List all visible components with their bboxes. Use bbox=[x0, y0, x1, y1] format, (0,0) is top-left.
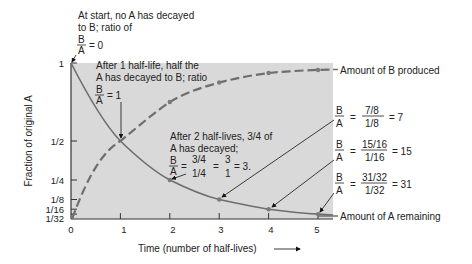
svg-text:=: = bbox=[213, 161, 219, 172]
svg-text:=: = bbox=[181, 161, 187, 172]
x-tick-4: 4 bbox=[268, 224, 273, 235]
ratio-3-half-lives: B A = 7/8 1/8 = 7 bbox=[335, 105, 404, 129]
svg-text:B: B bbox=[78, 34, 85, 45]
svg-text:to B; ratio of: to B; ratio of bbox=[78, 22, 132, 33]
decay-chart: 1 1/2 1/4 1/8 1/16 1/32 0 1 2 3 4 5 Frac… bbox=[0, 0, 472, 264]
svg-text:1/4: 1/4 bbox=[192, 168, 206, 179]
series-b-label: Amount of B produced bbox=[340, 65, 440, 76]
svg-text:B: B bbox=[96, 84, 103, 95]
svg-text:=: = bbox=[350, 146, 356, 157]
svg-text:A: A bbox=[170, 166, 177, 177]
x-tick-2: 2 bbox=[170, 224, 175, 235]
y-tick-1-32: 1/32 bbox=[46, 213, 65, 224]
x-tick-1: 1 bbox=[121, 224, 126, 235]
svg-text:= 3.: = 3. bbox=[234, 161, 251, 172]
annotation-start-arrow-icon bbox=[72, 55, 76, 62]
svg-text:1/8: 1/8 bbox=[365, 118, 379, 129]
svg-text:=: = bbox=[350, 179, 356, 190]
x-tick-5: 5 bbox=[314, 224, 319, 235]
svg-text:After 2 half-lives, 3/4 of: After 2 half-lives, 3/4 of bbox=[170, 131, 272, 142]
y-axis-title: Fraction of original A bbox=[23, 95, 34, 186]
svg-text:1: 1 bbox=[225, 168, 231, 179]
svg-text:A has decayed;: A has decayed; bbox=[170, 143, 238, 154]
svg-text:7/8: 7/8 bbox=[365, 105, 379, 116]
svg-text:= 7: = 7 bbox=[389, 112, 404, 123]
svg-text:B: B bbox=[336, 105, 343, 116]
y-tick-1-4: 1/4 bbox=[51, 175, 64, 186]
y-tick-1: 1 bbox=[59, 58, 64, 69]
svg-text:A: A bbox=[336, 118, 343, 129]
x-tick-labels: 0 1 2 3 4 5 bbox=[68, 224, 319, 235]
svg-text:15/16: 15/16 bbox=[362, 139, 387, 150]
svg-text:A: A bbox=[336, 185, 343, 196]
svg-text:= 1: = 1 bbox=[107, 90, 122, 101]
svg-text:= 31: = 31 bbox=[392, 179, 412, 190]
svg-text:= 0: = 0 bbox=[89, 40, 104, 51]
annotation-start: At start, no A has decayed to B; ratio o… bbox=[77, 10, 194, 56]
svg-text:B: B bbox=[170, 155, 177, 166]
svg-text:A has decayed to B; ratio: A has decayed to B; ratio bbox=[96, 72, 208, 83]
svg-text:1/32: 1/32 bbox=[365, 185, 385, 196]
x-tick-3: 3 bbox=[218, 224, 223, 235]
x-tick-0: 0 bbox=[68, 224, 73, 235]
y-tick-labels: 1 1/2 1/4 1/8 1/16 1/32 bbox=[46, 58, 65, 224]
svg-text:At start, no A has decayed: At start, no A has decayed bbox=[78, 10, 194, 21]
svg-text:=: = bbox=[350, 112, 356, 123]
svg-text:B: B bbox=[336, 139, 343, 150]
svg-text:A: A bbox=[78, 45, 85, 56]
svg-text:1/16: 1/16 bbox=[365, 152, 385, 163]
x-axis-title: Time (number of half-lives) bbox=[138, 243, 257, 254]
svg-text:B: B bbox=[336, 172, 343, 183]
ratio-5-half-lives: B A = 31/32 1/32 = 31 bbox=[335, 172, 412, 196]
svg-text:3: 3 bbox=[225, 154, 231, 165]
series-a-label: Amount of A remaining bbox=[340, 211, 441, 222]
svg-text:3/4: 3/4 bbox=[192, 154, 206, 165]
svg-text:A: A bbox=[336, 152, 343, 163]
svg-text:31/32: 31/32 bbox=[362, 172, 387, 183]
svg-text:A: A bbox=[96, 95, 103, 106]
svg-text:= 15: = 15 bbox=[392, 146, 412, 157]
svg-text:After 1 half-life, half the: After 1 half-life, half the bbox=[96, 60, 199, 71]
y-tick-1-2: 1/2 bbox=[51, 136, 64, 147]
ratio-4-half-lives: B A = 15/16 1/16 = 15 bbox=[335, 139, 412, 163]
